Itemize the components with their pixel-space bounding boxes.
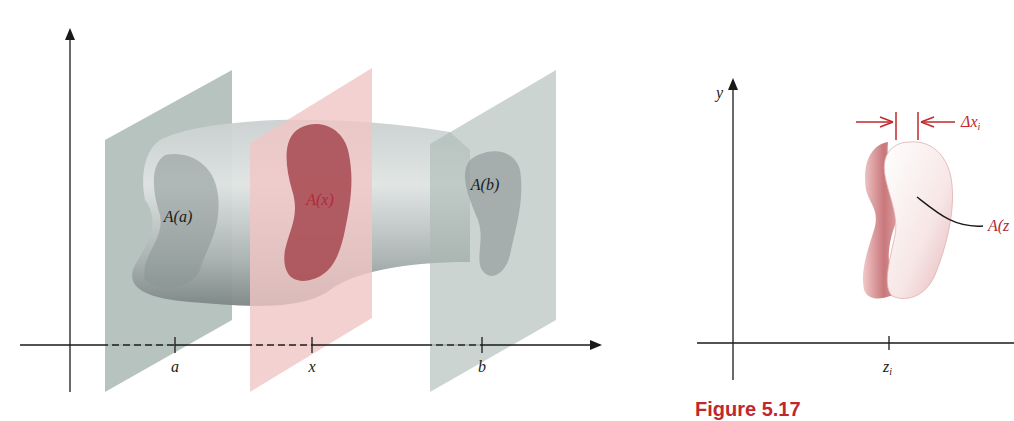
area-label: A(z: [987, 217, 1010, 235]
thickness-label: Δxi: [960, 113, 981, 132]
right-y-label: y: [714, 84, 724, 102]
tick-label-a: a: [171, 358, 179, 375]
tick-label-x: x: [307, 358, 315, 375]
section-label-a: A(a): [163, 208, 192, 226]
figure-caption: Figure 5.17: [695, 398, 801, 421]
left-figure: a x b A(a) A(x) A(b): [20, 30, 600, 392]
section-label-b: A(b): [470, 176, 499, 194]
tick-label-zi: zi: [882, 358, 892, 377]
section-label-x: A(x): [305, 191, 334, 209]
tick-label-b: b: [478, 358, 486, 375]
right-figure: y zi Δxi A(z: [697, 80, 1014, 380]
